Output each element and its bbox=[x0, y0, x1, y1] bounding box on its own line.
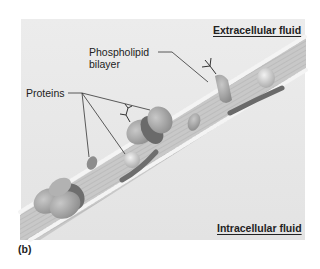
phospholipid-label-line1: Phospholipid bbox=[89, 46, 149, 58]
peripheral-protein-round bbox=[124, 152, 140, 168]
extracellular-fluid-label: Extracellular fluid bbox=[213, 24, 301, 36]
proteins-label: Proteins bbox=[26, 87, 65, 99]
peripheral-protein-top bbox=[257, 68, 275, 88]
figure-label: (b) bbox=[18, 243, 31, 255]
intracellular-fluid-label: Intracellular fluid bbox=[217, 222, 302, 234]
phospholipid-label-line2: bilayer bbox=[89, 58, 120, 70]
glycan-top bbox=[202, 58, 216, 74]
glycan-middle bbox=[120, 104, 132, 122]
